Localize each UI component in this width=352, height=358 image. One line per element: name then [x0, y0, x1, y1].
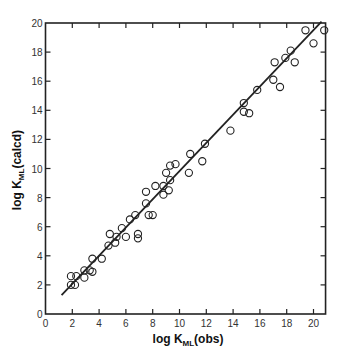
data-point — [199, 158, 206, 165]
y-tick-label: 10 — [31, 164, 43, 175]
y-tick-label: 20 — [31, 18, 43, 29]
x-tick-label: 18 — [281, 318, 293, 329]
data-point — [270, 76, 277, 83]
x-tick-label: 0 — [43, 318, 49, 329]
data-point — [302, 27, 309, 34]
data-point — [142, 188, 149, 195]
y-tick-label: 12 — [31, 134, 43, 145]
data-point — [106, 230, 113, 237]
x-tick-label: 14 — [228, 318, 240, 329]
y-tick-label: 14 — [31, 105, 43, 116]
scatter-chart: 0246810121416182002468101214161820 log K… — [0, 0, 352, 358]
x-tick-label: 12 — [201, 318, 213, 329]
x-axis-title: log KML(obs) — [153, 332, 224, 348]
data-point — [134, 235, 141, 242]
x-tick-label: 6 — [123, 318, 129, 329]
y-tick-label: 16 — [31, 76, 43, 87]
x-tick-label: 8 — [150, 318, 156, 329]
data-points — [67, 27, 327, 289]
x-tick-label: 10 — [174, 318, 186, 329]
y-tick-label: 18 — [31, 47, 43, 58]
data-point — [187, 150, 194, 157]
y-tick-label: 8 — [37, 193, 43, 204]
data-point — [152, 182, 159, 189]
data-point — [185, 169, 192, 176]
y-tick-label: 6 — [37, 222, 43, 233]
y-tick-label: 2 — [37, 280, 43, 291]
x-tick-label: 2 — [70, 318, 76, 329]
data-point — [310, 40, 317, 47]
data-point — [89, 268, 96, 275]
x-tick-label: 4 — [96, 318, 102, 329]
y-axis-title: log KML(calcd) — [10, 130, 26, 210]
x-tick-label: 20 — [308, 318, 320, 329]
data-point — [321, 27, 328, 34]
data-point — [271, 59, 278, 66]
data-point — [81, 274, 88, 281]
fit-line — [62, 22, 322, 296]
x-tick-label: 16 — [254, 318, 266, 329]
data-point — [165, 187, 172, 194]
data-point — [98, 255, 105, 262]
data-point — [276, 83, 283, 90]
data-point — [163, 169, 170, 176]
data-point — [227, 127, 234, 134]
y-tick-label: 4 — [37, 251, 43, 262]
data-point — [291, 59, 298, 66]
data-point — [122, 233, 129, 240]
y-tick-label: 0 — [37, 309, 43, 320]
